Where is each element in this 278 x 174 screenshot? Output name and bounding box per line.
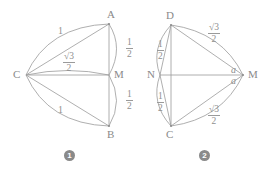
- fraction-numerator: 1: [157, 92, 164, 103]
- vertex-label-N: N: [147, 69, 155, 80]
- figure-2-graphics: [0, 0, 278, 174]
- diagram-canvas: A C M B 1 1 √3 2 1 2 1 2 1: [0, 0, 278, 174]
- fraction-numerator: 1: [157, 40, 164, 51]
- vertex-dot-D: [170, 24, 172, 26]
- fraction-denominator: 2: [208, 34, 220, 44]
- vertex-dot-C: [170, 125, 172, 127]
- arc-label-DM: √3 2: [208, 23, 220, 44]
- arc-label-NC: 1 2: [157, 92, 164, 113]
- angle-label-a-upper: a: [231, 65, 236, 75]
- angle-label-a-lower: a: [231, 76, 236, 86]
- vertex-label-M: M: [248, 69, 258, 80]
- arc-label-DN: 1 2: [157, 40, 164, 61]
- vertex-dot-M: [242, 74, 244, 76]
- fraction-denominator: 2: [208, 116, 220, 126]
- fraction-denominator: 2: [157, 51, 164, 61]
- vertex-label-C: C: [166, 129, 173, 140]
- arc-label-CM: √3 2: [208, 105, 220, 126]
- fraction-numerator: √3: [208, 105, 220, 116]
- figure-2-caption-badge: 2: [199, 150, 210, 161]
- fraction-numerator: √3: [208, 23, 220, 34]
- vertex-label-D: D: [166, 10, 174, 21]
- fraction-denominator: 2: [157, 103, 164, 113]
